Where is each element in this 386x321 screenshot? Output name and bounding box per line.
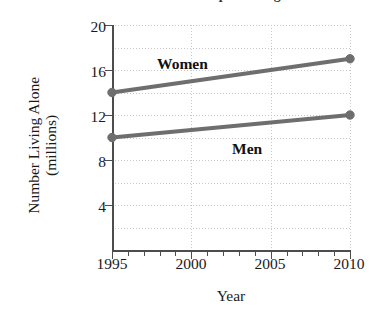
chart-figure: Number of People Living Alone Number Liv…: [0, 0, 386, 321]
y-axis-title-line2: (millions): [42, 35, 59, 255]
y-tick-label-16: 16: [72, 64, 106, 80]
x-tick-label-2010: 2010: [319, 256, 379, 272]
y-tick-label-8: 8: [72, 154, 106, 170]
x-tick-label-2005: 2005: [240, 256, 300, 272]
series-label-women: Women: [157, 55, 208, 73]
axis-lines: [112, 25, 350, 251]
chart-title: Number of People Living Alone: [118, 0, 328, 3]
x-tick-label-2000: 2000: [161, 256, 221, 272]
y-axis-title: Number Living Alone (millions): [25, 35, 60, 255]
series-label-men: Men: [232, 140, 262, 158]
gridlines: [112, 25, 351, 250]
x-tick-label-1995: 1995: [82, 256, 142, 272]
y-axis-title-line1: Number Living Alone: [25, 35, 42, 255]
y-tick-label-20: 20: [72, 19, 106, 35]
y-tick-label-4: 4: [72, 199, 106, 215]
data-series: [108, 55, 354, 142]
x-axis-title: Year: [112, 287, 350, 305]
axis-ticks: [105, 26, 351, 260]
y-tick-label-12: 12: [72, 109, 106, 125]
